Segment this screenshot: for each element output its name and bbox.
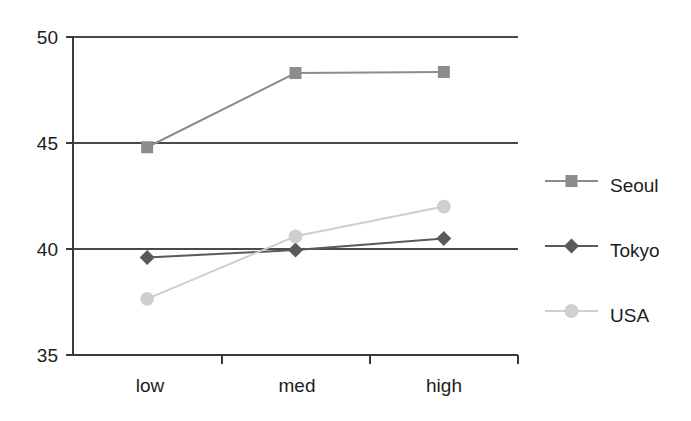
y-tick-label-35: 35 [37, 345, 58, 366]
x-tick-labels: low med high [136, 375, 462, 396]
axes [73, 36, 518, 356]
chart-legend: Seoul Tokyo USA [545, 175, 660, 326]
series-seoul [141, 66, 450, 153]
y-tick-labels: 50 45 40 35 [37, 27, 58, 366]
x-tick-label-high: high [426, 375, 462, 396]
data-point-tokyo-high [436, 231, 451, 246]
data-point-usa-low [140, 292, 154, 306]
y-tick-label-50: 50 [37, 27, 58, 48]
chart-canvas: 50 45 40 35 low med high Seoul Tokyo USA [0, 0, 691, 421]
data-point-seoul-high [438, 66, 450, 78]
data-point-seoul-med [290, 67, 302, 79]
series-line-seoul [147, 72, 444, 147]
data-series-layer [140, 66, 452, 306]
legend-item-seoul[interactable]: Seoul [610, 175, 659, 196]
x-tick-label-med: med [279, 375, 316, 396]
legend-label-usa: USA [610, 305, 649, 326]
y-tick-label-40: 40 [37, 239, 58, 260]
data-point-usa-high [437, 200, 451, 214]
y-tick-label-45: 45 [37, 133, 58, 154]
legend-item-usa[interactable]: USA [610, 305, 649, 326]
x-tick-label-low: low [136, 375, 165, 396]
data-point-tokyo-med [288, 243, 303, 258]
data-point-tokyo-low [140, 250, 155, 265]
x-tick-marks [222, 355, 518, 364]
line-chart: 50 45 40 35 low med high Seoul Tokyo USA [0, 0, 691, 421]
data-point-seoul-low [141, 141, 153, 153]
gridlines [73, 37, 518, 355]
legend-item-tokyo[interactable]: Tokyo [610, 240, 660, 261]
legend-label-tokyo: Tokyo [610, 240, 660, 261]
y-tick-marks [66, 37, 73, 355]
data-point-usa-med [289, 229, 303, 243]
legend-label-seoul: Seoul [610, 175, 659, 196]
